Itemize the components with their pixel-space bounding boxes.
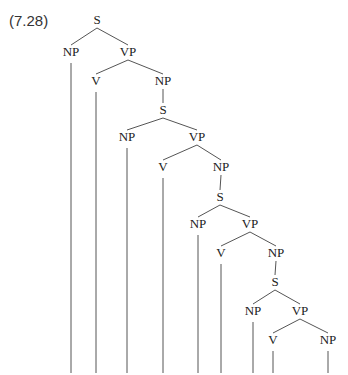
tree-edge: [128, 60, 163, 74]
tree-node-v: V: [91, 73, 101, 88]
tree-node-v: V: [216, 245, 226, 260]
tree-edge: [221, 232, 250, 246]
tree-edge: [197, 145, 221, 160]
tree-node-np: NP: [63, 44, 80, 59]
tree-edge: [250, 232, 276, 246]
tree-node-s: S: [159, 102, 166, 117]
tree-node-s: S: [93, 12, 100, 27]
tree-node-vp: VP: [242, 216, 259, 231]
syntax-tree: SNPVPVNPSNPVPVNPSNPVPVNPSNPVPVNP: [0, 0, 348, 375]
tree-edge: [253, 290, 275, 304]
tree-node-vp: VP: [292, 303, 309, 318]
tree-node-vp: VP: [120, 44, 137, 59]
tree-node-np: NP: [213, 159, 230, 174]
tree-node-s: S: [271, 274, 278, 289]
tree-edge: [97, 28, 128, 45]
tree-node-vp: VP: [189, 129, 206, 144]
tree-node-np: NP: [119, 129, 136, 144]
tree-node-np: NP: [268, 245, 285, 260]
tree-edge: [96, 60, 128, 74]
tree-node-np: NP: [245, 303, 262, 318]
tree-edge: [220, 175, 221, 190]
tree-edge: [275, 261, 276, 275]
tree-node-v: V: [158, 159, 168, 174]
tree-node-s: S: [216, 189, 223, 204]
tree-edge: [71, 28, 97, 45]
tree-node-np: NP: [320, 332, 337, 347]
tree-edge: [273, 319, 300, 333]
tree-node-np: NP: [190, 216, 207, 231]
tree-edge: [300, 319, 328, 333]
tree-node-v: V: [268, 332, 278, 347]
tree-node-np: NP: [155, 73, 172, 88]
tree-edge: [275, 290, 300, 304]
tree-edge: [163, 145, 197, 160]
